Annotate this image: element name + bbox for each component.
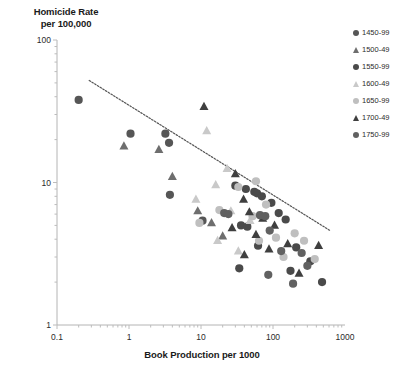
- data-point: [251, 230, 260, 238]
- circle-marker-icon: [350, 129, 361, 140]
- legend-item[interactable]: 1500-49: [350, 41, 408, 58]
- data-point: [202, 126, 211, 134]
- data-point: [193, 206, 202, 214]
- series-1550-99: [231, 182, 326, 287]
- data-point: [242, 185, 250, 193]
- legend-item-label: 1550-99: [362, 62, 390, 71]
- legend-item[interactable]: 1450-99: [350, 24, 408, 41]
- chart-figure: Homicide Rate per 100,000 0.111010010001…: [0, 0, 410, 375]
- data-point: [318, 278, 326, 286]
- legend-item[interactable]: 1550-99: [350, 58, 408, 75]
- circle-marker-icon: [350, 95, 361, 106]
- data-point: [282, 215, 290, 223]
- x-tick-label: 1000: [336, 332, 355, 342]
- data-point: [207, 218, 216, 226]
- x-tick-label: 10: [196, 332, 205, 342]
- data-point: [234, 246, 243, 254]
- data-point: [258, 192, 266, 200]
- data-point: [168, 172, 177, 180]
- series-1500-49: [119, 141, 227, 239]
- data-point: [245, 207, 254, 215]
- data-point: [314, 241, 323, 249]
- legend-item-label: 1750-99: [362, 130, 390, 139]
- legend-item[interactable]: 1750-99: [350, 126, 408, 143]
- trend-line: [89, 80, 330, 230]
- data-point: [298, 249, 306, 257]
- data-point: [275, 209, 283, 217]
- data-point: [199, 102, 208, 110]
- legend-item-label: 1700-49: [362, 113, 390, 122]
- data-point: [303, 262, 311, 270]
- data-point: [119, 141, 128, 149]
- data-point: [195, 219, 203, 227]
- data-point: [272, 234, 280, 242]
- data-point: [262, 200, 270, 208]
- series-1450-99: [75, 96, 207, 225]
- data-point: [266, 226, 274, 234]
- data-point: [311, 255, 319, 263]
- data-point: [291, 229, 299, 237]
- data-point: [228, 223, 237, 231]
- data-point: [265, 244, 274, 252]
- data-point: [286, 267, 294, 275]
- data-point: [235, 264, 243, 272]
- x-axis-title: Book Production per 1000: [57, 349, 347, 360]
- triangle-marker-icon: [350, 78, 361, 89]
- triangle-marker-icon: [350, 112, 361, 123]
- data-point: [252, 177, 260, 185]
- data-point: [261, 212, 269, 220]
- scatter-plot-canvas: [0, 0, 410, 375]
- data-point: [234, 183, 242, 191]
- circle-marker-icon: [350, 27, 361, 38]
- y-tick-label: 10: [27, 178, 51, 188]
- y-tick-label: 1: [27, 320, 51, 330]
- data-point: [191, 195, 200, 203]
- data-point: [283, 239, 292, 247]
- data-point: [166, 191, 174, 199]
- data-point: [277, 247, 285, 255]
- y-tick-label: 100: [27, 35, 51, 45]
- data-point: [75, 96, 83, 104]
- data-point: [161, 130, 169, 138]
- data-point: [223, 164, 232, 172]
- data-point: [239, 195, 248, 203]
- x-tick-label: 1: [127, 332, 132, 342]
- data-point: [165, 139, 173, 147]
- data-point: [300, 237, 308, 245]
- data-point: [295, 269, 304, 277]
- legend-item[interactable]: 1600-49: [350, 75, 408, 92]
- x-tick-label: 0.1: [51, 332, 63, 342]
- data-point: [289, 280, 297, 288]
- data-point: [218, 231, 227, 239]
- data-point: [264, 271, 272, 279]
- legend-item-label: 1600-49: [362, 79, 390, 88]
- x-tick-label: 100: [266, 332, 280, 342]
- data-point: [154, 145, 163, 153]
- data-point: [224, 210, 232, 218]
- chart-legend: 1450-991500-491550-991600-491650-991700-…: [350, 24, 408, 143]
- legend-item-label: 1500-49: [362, 45, 390, 54]
- triangle-marker-icon: [350, 44, 361, 55]
- data-point: [126, 130, 134, 138]
- legend-item[interactable]: 1700-49: [350, 109, 408, 126]
- legend-item[interactable]: 1650-99: [350, 92, 408, 109]
- circle-marker-icon: [350, 61, 361, 72]
- legend-item-label: 1650-99: [362, 96, 390, 105]
- data-point: [211, 180, 220, 188]
- legend-item-label: 1450-99: [362, 28, 390, 37]
